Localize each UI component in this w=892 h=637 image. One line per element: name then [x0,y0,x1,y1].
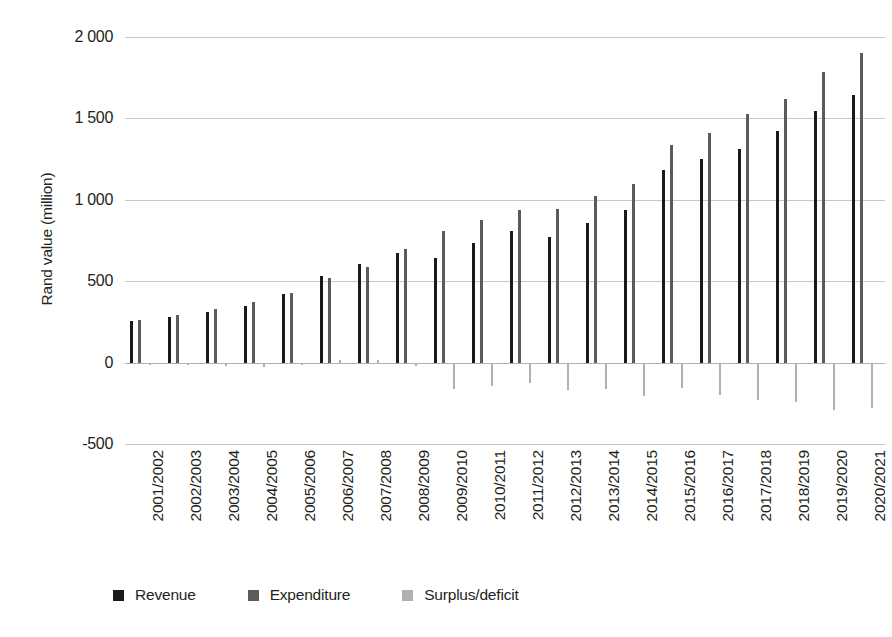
bar-group-bars [429,37,467,444]
bar-expenditure [176,315,179,362]
bar-expenditure [594,196,597,362]
bar-group [429,37,467,444]
bar-surplus-deficit [529,363,532,384]
bar-surplus-deficit [567,363,570,391]
bar-revenue [548,237,551,363]
x-axis-tick-cell: 2019/2020 [809,450,847,570]
legend-label: Expenditure [270,586,351,604]
y-axis-tick-label: 2 000 [74,28,113,46]
legend-swatch-icon [402,590,413,601]
bar-group [695,37,733,444]
bar-group [125,37,163,444]
bar-expenditure [252,302,255,363]
legend-swatch-icon [113,590,124,601]
bar-expenditure [860,53,863,362]
bar-revenue [776,131,779,362]
bar-group [315,37,353,444]
bar-expenditure [214,309,217,363]
bar-expenditure [290,293,293,363]
x-axis-tick-cell: 2010/2011 [467,450,505,570]
bar-group [543,37,581,444]
x-axis-tick-cell: 2016/2017 [695,450,733,570]
bar-group-bars [657,37,695,444]
bar-expenditure [784,99,787,363]
bar-group-bars [163,37,201,444]
bar-surplus-deficit [491,363,494,386]
bar-surplus-deficit [643,363,646,396]
bar-group-bars [847,37,885,444]
bar-group [239,37,277,444]
bar-surplus-deficit [415,363,418,366]
bar-group [733,37,771,444]
x-axis-tick-cell: 2020/2021 [847,450,885,570]
bar-surplus-deficit [833,363,836,410]
bar-group-bars [353,37,391,444]
x-axis-tick-cell: 2015/2016 [657,450,695,570]
bar-expenditure [708,133,711,362]
bar-surplus-deficit [377,360,380,363]
x-axis-tick-cell: 2011/2012 [505,450,543,570]
bar-group [391,37,429,444]
bar-group-bars [505,37,543,444]
bar-group-bars [391,37,429,444]
bar-revenue [662,170,665,362]
bar-surplus-deficit [795,363,798,403]
x-axis-tick-cell: 2004/2005 [239,450,277,570]
bar-revenue [510,231,513,363]
bar-revenue [738,149,741,363]
bar-revenue [130,321,133,363]
y-axis-tick-label: 1 000 [74,191,113,209]
x-axis-tick-cell: 2001/2002 [125,450,163,570]
bar-revenue [434,258,437,363]
x-axis-tick-labels: 2001/20022002/20032003/20042004/20052005… [125,450,885,570]
bar-surplus-deficit [187,363,190,365]
legend-item: Surplus/deficit [402,586,518,604]
bar-group [657,37,695,444]
bar-surplus-deficit [453,363,456,390]
bar-group [619,37,657,444]
x-axis-tick-cell: 2006/2007 [315,450,353,570]
bar-group-bars [771,37,809,444]
x-axis-tick-cell: 2013/2014 [581,450,619,570]
x-axis-tick-cell: 2003/2004 [201,450,239,570]
x-axis-tick-cell: 2017/2018 [733,450,771,570]
legend-item: Revenue [113,586,196,604]
legend-label: Surplus/deficit [424,586,518,604]
x-axis-tick-cell: 2009/2010 [429,450,467,570]
bar-revenue [624,210,627,362]
bar-group [277,37,315,444]
bar-expenditure [822,72,825,362]
legend-swatch-icon [248,590,259,601]
bar-surplus-deficit [149,363,152,365]
bar-revenue [700,159,703,363]
x-axis-tick-cell: 2012/2013 [543,450,581,570]
bar-expenditure [632,184,635,363]
x-axis-tick-cell: 2014/2015 [619,450,657,570]
bar-group-bars [277,37,315,444]
bar-expenditure [328,278,331,363]
plot-area: -50005001 0001 5002 000 [125,37,885,444]
bar-group-bars [695,37,733,444]
bar-expenditure [556,209,559,363]
bar-chart-figure: Rand value (million) -50005001 0001 5002… [0,0,892,637]
bar-expenditure [480,220,483,363]
x-axis-tick-cell: 2002/2003 [163,450,201,570]
bar-expenditure [138,320,141,363]
bar-expenditure [670,145,673,362]
bar-group-bars [543,37,581,444]
bar-group [353,37,391,444]
bar-revenue [814,111,817,363]
bar-group [163,37,201,444]
bar-group [809,37,847,444]
bar-surplus-deficit [263,363,266,367]
bar-revenue [586,223,589,363]
bar-group-bars [125,37,163,444]
bar-group-bars [809,37,847,444]
y-axis-tick-label: -500 [82,435,113,453]
x-axis-tick-label: 2020/2021 [871,450,889,521]
bar-surplus-deficit [757,363,760,401]
bar-surplus-deficit [681,363,684,388]
bar-revenue [472,243,475,363]
y-axis-tick-label: 1 500 [74,109,113,127]
y-axis-tick-label: 0 [104,354,113,372]
